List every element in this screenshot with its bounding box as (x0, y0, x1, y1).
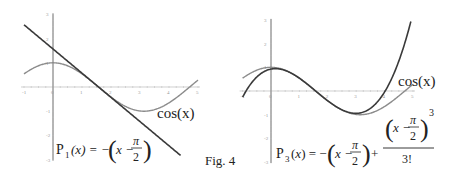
y-tick-label: -1 (46, 109, 51, 114)
svg-text:3: 3 (429, 107, 434, 118)
svg-text:(x) = −: (x) = − (291, 146, 327, 161)
svg-text:P: P (276, 146, 284, 161)
left-formula-arg: (x) = − (71, 142, 110, 157)
svg-text:): ) (362, 139, 371, 168)
y-tick-label: -3 (46, 158, 51, 163)
y-tick-label: 2 (264, 42, 267, 47)
svg-text:2: 2 (352, 154, 358, 168)
left-formula: P 1 (x) = − ( x − π 2 ) (56, 134, 152, 164)
x-tick-label: 0 (269, 94, 272, 99)
svg-text:P: P (56, 142, 64, 157)
y-tick-label: -2 (46, 133, 51, 138)
left-cos-label: cos(x) (157, 105, 195, 122)
x-tick-label: 0 (51, 90, 54, 95)
svg-text:x −: x − (115, 142, 134, 157)
x-tick-label: 5 (411, 94, 414, 99)
svg-text:3: 3 (285, 154, 290, 164)
figure-caption: Fig. 4 (205, 153, 235, 169)
x-tick-label: 2 (109, 90, 112, 95)
right-cos-label: cos(x) (398, 73, 436, 90)
y-tick-label: 3 (46, 12, 49, 17)
svg-text:): ) (420, 114, 429, 143)
y-tick-label: -2 (264, 136, 269, 141)
svg-text:3!: 3! (402, 152, 412, 166)
svg-text:π: π (133, 134, 140, 148)
x-tick-label: -1 (22, 90, 27, 95)
x-tick-label: 2 (326, 94, 329, 99)
x-tick-label: 4 (167, 90, 170, 95)
svg-text:1: 1 (65, 150, 70, 160)
x-tick-label: 5 (196, 90, 199, 95)
x-tick-label: 3 (354, 94, 357, 99)
svg-text:2: 2 (133, 150, 139, 164)
svg-text:2: 2 (410, 129, 416, 143)
svg-text:x −: x − (392, 120, 411, 135)
x-tick-label: 3 (138, 90, 141, 95)
y-tick-label: 3 (264, 18, 267, 23)
svg-text:π: π (352, 138, 359, 152)
svg-text:): ) (143, 135, 152, 164)
right-formula: P 3 (x) = − ( x − π 2 ) + ( x − π 2 ) 3 … (276, 107, 434, 168)
svg-text:+: + (371, 146, 378, 161)
y-tick-label: -3 (264, 160, 269, 165)
y-tick-label: -1 (264, 113, 269, 118)
y-tick-label: 2 (46, 37, 49, 42)
svg-text:π: π (410, 113, 417, 127)
x-tick-label: 1 (80, 90, 83, 95)
x-tick-label: 1 (297, 94, 300, 99)
svg-text:x −: x − (334, 146, 353, 161)
